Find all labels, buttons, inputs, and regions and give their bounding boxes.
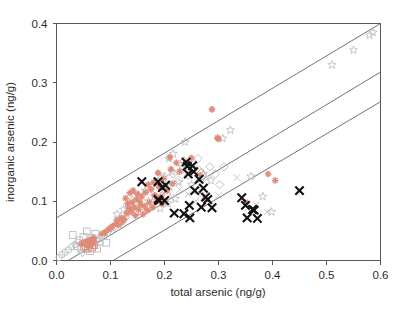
data-point xyxy=(176,168,183,175)
data-point xyxy=(215,136,222,143)
y-tick-label: 0.4 xyxy=(32,18,49,30)
data-point xyxy=(121,216,128,223)
data-point xyxy=(146,199,153,206)
x-axis-title: total arsenic (ng/g) xyxy=(170,286,265,298)
data-point xyxy=(167,154,174,161)
x-tick-label: 0.4 xyxy=(265,269,282,281)
x-tick-label: 0.2 xyxy=(157,269,173,281)
y-tick-label: 0.2 xyxy=(32,136,48,148)
x-tick-label: 0.5 xyxy=(319,269,335,281)
x-tick-label: 0.6 xyxy=(373,269,389,281)
data-point xyxy=(272,177,279,184)
data-point xyxy=(173,159,180,166)
data-point xyxy=(132,212,139,219)
y-tick-label: 0.1 xyxy=(32,195,48,207)
arsenic-scatter-figure: 0.00.10.20.30.40.50.6 0.00.10.20.30.4 to… xyxy=(0,0,399,315)
data-point xyxy=(168,166,175,173)
y-axis-title: inorganic arsenic (ng/g) xyxy=(4,82,16,202)
data-point xyxy=(155,170,162,177)
x-tick-label: 0.3 xyxy=(211,269,227,281)
scatter-plot-canvas: 0.00.10.20.30.40.50.6 0.00.10.20.30.4 to… xyxy=(0,0,399,315)
data-point xyxy=(148,186,155,193)
data-point xyxy=(169,180,176,187)
data-point xyxy=(265,171,272,178)
data-point xyxy=(209,106,216,113)
y-tick-label: 0.3 xyxy=(32,77,48,89)
y-tick-label: 0.0 xyxy=(32,255,48,267)
x-tick-label: 0.0 xyxy=(49,269,65,281)
x-tick-label: 0.1 xyxy=(103,269,119,281)
